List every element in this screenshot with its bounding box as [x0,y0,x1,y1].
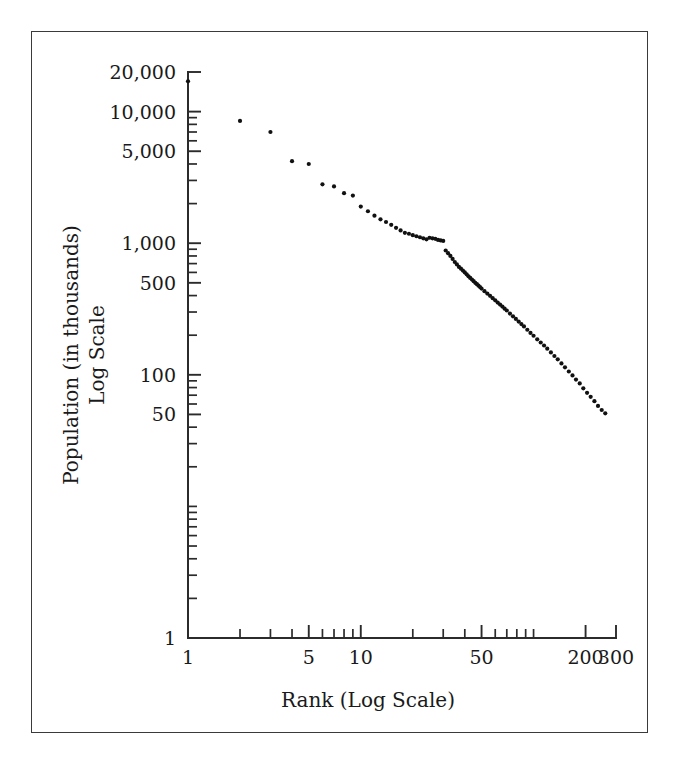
data-point [351,194,355,198]
data-point [542,343,546,347]
data-point [535,337,539,341]
data-point [332,184,336,188]
data-point [307,162,311,166]
data-point [578,381,582,385]
y-tick-label: 1,000 [122,232,176,254]
x-axis-title: Rank (Log Scale) [281,688,455,712]
data-point [441,239,445,243]
data-point [407,232,411,236]
y-tick-label: 10,000 [110,101,176,123]
y-tick-label: 50 [152,403,176,425]
y-axis-ticks [188,72,201,598]
data-point [567,369,571,373]
y-axis-title-line2: Log Scale [85,305,109,405]
data-point [372,214,376,218]
data-point [539,340,543,344]
data-point [552,354,556,358]
data-point [585,391,589,395]
axis-lines [188,72,616,638]
y-axis-title-line1: Population (in thousands) [59,225,83,485]
y-axis-tick-labels: 20,00010,0005,0001,000500100501 [110,61,176,649]
data-point [563,365,567,369]
data-point [389,223,393,227]
data-point [394,226,398,230]
data-point [399,228,403,232]
x-tick-label: 1 [182,646,194,668]
data-point [589,395,593,399]
data-point [366,209,370,213]
data-point [556,357,560,361]
data-point [592,399,596,403]
data-point [268,130,272,134]
y-tick-label: 500 [140,272,176,294]
data-point [403,231,407,235]
data-point-series [186,79,607,415]
y-tick-label: 5,000 [122,140,176,162]
data-point [545,347,549,351]
figure-root: 20,00010,0005,0001,000500100501 15105020… [0,0,677,762]
data-point [238,119,242,123]
data-point [186,79,190,83]
y-tick-label: 1 [164,627,176,649]
data-point [603,411,607,415]
y-tick-label: 100 [140,364,176,386]
data-point [320,182,324,186]
data-point [581,386,585,390]
x-tick-label: 5 [303,646,315,668]
data-point [342,191,346,195]
data-point [570,373,574,377]
x-tick-label: 50 [469,646,493,668]
x-tick-label: 10 [349,646,373,668]
data-point [574,377,578,381]
data-point [559,361,563,365]
data-point [600,408,604,412]
data-point [531,334,535,338]
axis-spine [188,72,616,638]
data-point [378,217,382,221]
data-point [384,220,388,224]
data-point [549,350,553,354]
data-point [505,308,509,312]
y-tick-label: 20,000 [110,61,176,83]
data-point [525,328,529,332]
data-point [522,324,526,328]
x-axis-ticks [240,625,616,638]
x-axis-tick-labels: 151050200300 [182,646,634,668]
data-point [411,233,415,237]
rank-size-scatter-plot: 20,00010,0005,0001,000500100501 15105020… [0,0,677,762]
data-point [290,159,294,163]
x-tick-label: 300 [598,646,634,668]
data-point [359,204,363,208]
data-point [596,404,600,408]
